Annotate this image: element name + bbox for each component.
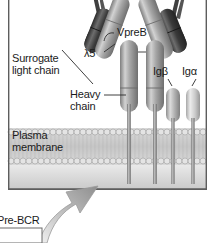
heavy-chain-stem-left — [120, 40, 138, 112]
label-pre-bcr: Pre-BCR — [0, 215, 40, 227]
label-ig-alpha: Igα — [182, 66, 197, 78]
label-lambda5: λ5 — [84, 48, 95, 60]
pre-bcr-diagram — [0, 0, 219, 243]
label-plasma-membrane: Plasma membrane — [12, 130, 63, 153]
label-vpreb: VpreB — [117, 27, 147, 39]
label-surrogate-light-chain: Surrogate light chain — [12, 53, 59, 76]
cytoplasm-region — [8, 165, 207, 190]
ig-alpha-stalk — [191, 118, 194, 184]
pre-bcr-box — [0, 228, 42, 243]
label-heavy-chain: Heavy chain — [70, 89, 100, 112]
label-ig-beta: Igβ — [153, 66, 168, 78]
pre-bcr-callout-arrow — [38, 186, 98, 243]
ig-beta-stalk — [171, 118, 174, 184]
diagram-canvas — [0, 0, 219, 243]
